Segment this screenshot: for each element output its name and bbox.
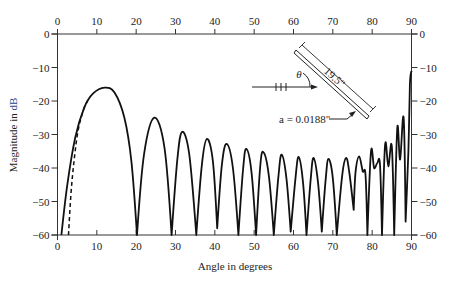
x-tick-label-top: 30 (170, 15, 182, 27)
x-tick-label-bottom: 90 (406, 240, 418, 252)
y-tick-label-left: −60 (32, 229, 50, 241)
x-tick-label-bottom: 20 (131, 240, 143, 252)
radius-leader (329, 111, 356, 119)
y-tick-label-right: 0 (420, 28, 426, 40)
x-tick-label-top: 40 (209, 15, 221, 27)
y-tick-label-left: 0 (44, 28, 50, 40)
inset-diagram: 19.5" θ a = 0.0188" (252, 42, 376, 125)
x-tick-label-bottom: 70 (327, 240, 339, 252)
radius-label: a = 0.0188" (279, 113, 330, 125)
axis-ticks (52, 29, 418, 235)
y-tick-label-right: −20 (420, 95, 438, 107)
x-tick-label-top: 90 (406, 15, 418, 27)
y-tick-label-right: −60 (420, 229, 438, 241)
y-tick-label-left: −20 (32, 95, 50, 107)
y-axis-title-unit: dB (7, 98, 19, 111)
y-axis-title-main: Magnitude in (7, 111, 19, 173)
dashed-curve (69, 99, 89, 235)
x-tick-label-top: 20 (131, 15, 143, 27)
x-tick-label-top: 10 (91, 15, 103, 27)
x-tick-label-bottom: 10 (91, 240, 103, 252)
y-tick-label-right: −50 (420, 196, 438, 208)
theta-arc (303, 73, 310, 87)
x-axis-title: Angle in degrees (198, 260, 273, 272)
x-tick-label-bottom: 50 (249, 240, 261, 252)
x-tick-label-bottom: 30 (170, 240, 182, 252)
y-tick-label-left: −40 (32, 162, 50, 174)
x-tick-label-top: 70 (327, 15, 339, 27)
x-tick-label-bottom: 0 (55, 240, 61, 252)
x-tick-label-top: 50 (249, 15, 261, 27)
chart: 0010102020303040405050606070708080909000… (0, 0, 454, 284)
plot-axes (52, 29, 418, 240)
x-tick-label-bottom: 40 (209, 240, 221, 252)
x-tick-label-bottom: 80 (367, 240, 379, 252)
y-tick-label-right: −30 (420, 129, 438, 141)
theta-label: θ (296, 68, 302, 80)
y-tick-label-left: −50 (32, 196, 50, 208)
x-tick-label-top: 60 (288, 15, 300, 27)
solid-curve (61, 71, 411, 235)
y-tick-label-left: −30 (32, 129, 50, 141)
tick-labels: 0010102020303040405050606070708080909000… (32, 15, 437, 252)
x-tick-label-top: 80 (367, 15, 379, 27)
incident-arrow (252, 83, 318, 91)
y-tick-label-right: −10 (420, 62, 438, 74)
x-tick-label-top: 0 (55, 15, 61, 27)
y-axis-title: Magnitude in dB (7, 98, 19, 173)
y-tick-label-right: −40 (420, 162, 438, 174)
y-tick-label-left: −10 (32, 62, 50, 74)
x-tick-label-bottom: 60 (288, 240, 300, 252)
rod (294, 50, 369, 119)
